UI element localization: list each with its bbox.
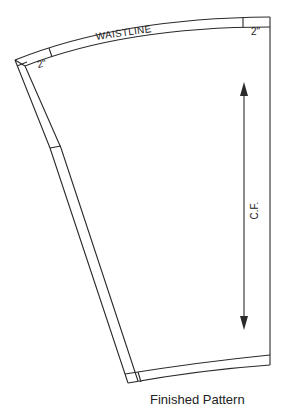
arrow-down-icon bbox=[240, 316, 248, 330]
hem-outer-edge bbox=[128, 365, 270, 383]
side-seam-inner bbox=[25, 66, 138, 381]
side-notch bbox=[50, 146, 61, 148]
arrow-up-icon bbox=[240, 82, 248, 96]
figure-caption: Finished Pattern bbox=[150, 392, 245, 407]
side-seam-outer bbox=[15, 60, 128, 383]
left-top-notch bbox=[49, 48, 52, 57]
seam-allowance-right-label: 2" bbox=[251, 26, 260, 37]
center-front-label: C.F. bbox=[249, 202, 260, 220]
hem-seam-line bbox=[125, 355, 270, 374]
